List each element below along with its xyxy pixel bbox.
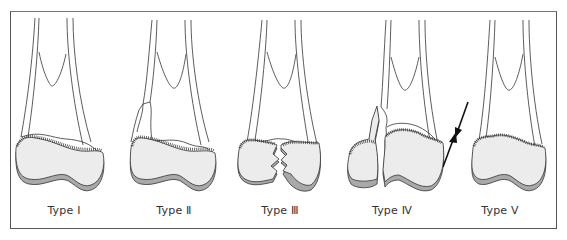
panel-type-4: Type Ⅳ (339, 12, 449, 228)
bone-diagram-type-5 (443, 12, 558, 202)
panel-type-2: Type Ⅱ (119, 12, 229, 228)
panel-type-3: Type Ⅲ (229, 12, 339, 228)
bone-diagram-type-4 (339, 12, 449, 202)
label-type-4: Type Ⅳ (337, 204, 447, 217)
figure-frame: Type Ⅰ Type Ⅱ (10, 11, 557, 229)
label-type-5: Type Ⅴ (445, 204, 555, 217)
bone-diagram-type-3 (229, 12, 339, 202)
bone-diagram-type-1 (11, 12, 121, 202)
label-type-2: Type Ⅱ (119, 204, 229, 217)
panel-type-1: Type Ⅰ (11, 12, 121, 228)
label-type-3: Type Ⅲ (225, 204, 335, 217)
figure-caption-truncated (10, 233, 140, 240)
label-type-1: Type Ⅰ (9, 204, 119, 217)
panel-type-5: Type Ⅴ (443, 12, 558, 228)
bone-diagram-type-2 (119, 12, 229, 202)
compression-arrow-icon (443, 102, 468, 167)
